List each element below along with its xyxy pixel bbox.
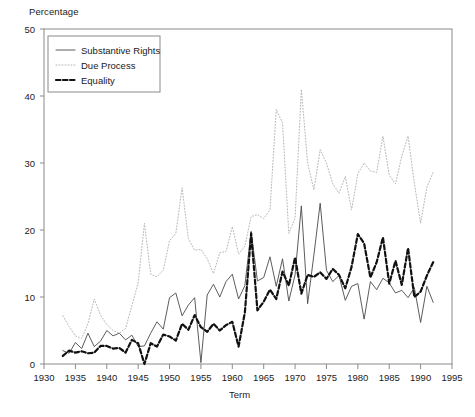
y-axis-tick-label: 0 [30,359,35,370]
y-axis-tick-label: 30 [24,158,35,169]
x-axis-tick-label: 1935 [65,372,86,383]
x-axis-tick-label: 1995 [441,372,462,383]
x-axis-tick-label: 1940 [96,372,117,383]
x-axis-tick-label: 1990 [410,372,431,383]
legend-label-1: Due Process [81,60,136,71]
x-axis-tick-label: 1985 [379,372,400,383]
y-axis-tick-label: 10 [24,292,35,303]
x-axis-tick-label: 1930 [33,372,54,383]
chart-container: Percentage 01020304050193019351940194519… [0,0,475,417]
x-axis-tick-label: 1970 [285,372,306,383]
y-axis-tick-label: 50 [24,24,35,35]
x-axis-tick-label: 1975 [316,372,337,383]
legend-label-2: Equality [81,75,115,86]
x-axis-tick-label: 1955 [190,372,211,383]
x-axis-tick-label: 1945 [128,372,149,383]
x-axis-tick-label: 1965 [253,372,274,383]
x-axis-tick-label: 1980 [347,372,368,383]
x-axis-tick-label: 1960 [222,372,243,383]
y-axis-tick-label: 40 [24,91,35,102]
series-line-2 [63,233,433,364]
line-chart-plot: 0102030405019301935194019451950195519601… [0,0,475,417]
y-axis-tick-label: 20 [24,225,35,236]
x-axis-tick-label: 1950 [159,372,180,383]
x-axis-label: Term [229,389,250,400]
legend-label-0: Substantive Rights [81,45,160,56]
x-axis-label-wrap: Term [0,389,475,400]
series-line-1 [63,89,433,338]
